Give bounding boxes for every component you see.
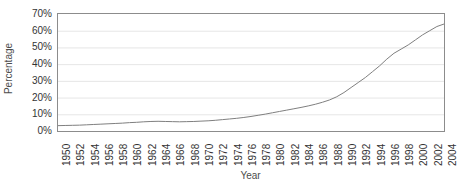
x-axis-tick-label: 1974 bbox=[233, 144, 244, 166]
x-axis-tick-labels: 1950195219541956195819601962196419661968… bbox=[57, 132, 444, 170]
y-axis-tick-label: 70% bbox=[32, 8, 52, 19]
x-axis-tick-label: 1956 bbox=[104, 144, 115, 166]
x-axis-tick-label: 1962 bbox=[147, 144, 158, 166]
x-axis-tick-label: 1986 bbox=[318, 144, 329, 166]
x-axis-tick-label: 1952 bbox=[75, 144, 86, 166]
x-axis-tick-label: 2002 bbox=[433, 144, 444, 166]
x-axis-tick-label: 1972 bbox=[218, 144, 229, 166]
x-axis-tick-label: 1960 bbox=[132, 144, 143, 166]
y-axis-tick-label: 10% bbox=[32, 108, 52, 119]
x-axis-tick-label: 1994 bbox=[376, 144, 387, 166]
plot-area bbox=[57, 13, 445, 132]
line-chart-svg bbox=[58, 14, 444, 131]
data-series-line bbox=[58, 24, 444, 126]
x-axis-tick-label: 1992 bbox=[361, 144, 372, 166]
x-axis-tick-label: 1970 bbox=[204, 144, 215, 166]
chart-container: Percentage 0%10%20%30%40%50%60%70% 19501… bbox=[0, 0, 462, 189]
x-axis-tick-label: 2000 bbox=[418, 144, 429, 166]
y-axis-tick-label: 50% bbox=[32, 41, 52, 52]
x-axis-title: Year bbox=[57, 170, 444, 181]
x-axis-tick-label: 1954 bbox=[90, 144, 101, 166]
y-axis-tick-label: 30% bbox=[32, 74, 52, 85]
x-axis-tick-label: 1988 bbox=[333, 144, 344, 166]
x-axis-tick-label: 2004 bbox=[447, 144, 458, 166]
x-axis-tick-label: 1976 bbox=[247, 144, 258, 166]
gridlines bbox=[58, 15, 444, 132]
y-axis-tick-label: 60% bbox=[32, 24, 52, 35]
x-axis-tick-label: 1950 bbox=[61, 144, 72, 166]
x-axis-tick-label: 1964 bbox=[161, 144, 172, 166]
x-axis-tick-label: 1990 bbox=[347, 144, 358, 166]
x-axis-title-label: Year bbox=[240, 170, 260, 181]
y-axis-title-label: Percentage bbox=[4, 42, 15, 93]
x-axis-tick-label: 1998 bbox=[404, 144, 415, 166]
x-axis-tick-label: 1980 bbox=[275, 144, 286, 166]
x-axis-tick-label: 1958 bbox=[118, 144, 129, 166]
y-axis-tick-label: 40% bbox=[32, 58, 52, 69]
y-axis-tick-label: 20% bbox=[32, 91, 52, 102]
x-axis-tick-label: 1982 bbox=[290, 144, 301, 166]
y-axis-tick-labels: 0%10%20%30%40%50%60%70% bbox=[16, 0, 55, 136]
x-axis-tick-label: 1978 bbox=[261, 144, 272, 166]
x-axis-tick-label: 1966 bbox=[175, 144, 186, 166]
x-axis-tick-label: 1968 bbox=[190, 144, 201, 166]
y-axis-tick-label: 0% bbox=[38, 125, 52, 136]
x-axis-tick-label: 1984 bbox=[304, 144, 315, 166]
x-axis-tick-label: 1996 bbox=[390, 144, 401, 166]
